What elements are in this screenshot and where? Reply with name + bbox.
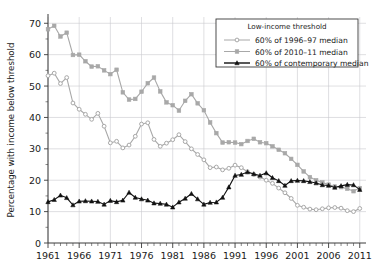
data-point	[152, 138, 156, 142]
data-point	[190, 92, 194, 96]
data-point	[165, 101, 169, 105]
data-point	[189, 191, 193, 195]
data-point	[127, 143, 131, 147]
data-point	[352, 210, 356, 214]
data-point	[271, 181, 275, 185]
data-point	[102, 69, 106, 73]
data-point	[127, 190, 131, 194]
data-point	[58, 193, 62, 197]
data-point	[190, 147, 194, 151]
x-tick-label: 1966	[67, 250, 91, 261]
data-point	[196, 102, 200, 106]
data-point	[65, 31, 69, 35]
x-tick-label: 2001	[285, 250, 309, 261]
data-point	[302, 170, 306, 174]
data-point	[208, 121, 212, 125]
y-tick-label: 30	[29, 143, 41, 154]
data-point	[171, 138, 175, 142]
chart-figure: 0102030405060701961196619711976198119861…	[0, 0, 379, 275]
data-point	[308, 175, 312, 179]
data-point	[165, 141, 169, 145]
data-point	[283, 151, 287, 155]
data-point	[46, 74, 50, 78]
data-point	[352, 189, 356, 193]
data-point	[333, 206, 337, 210]
legend-label: 60% of 1996–97 median	[255, 36, 348, 45]
data-point	[277, 148, 281, 152]
data-point	[59, 82, 63, 86]
data-point	[171, 103, 175, 107]
data-point	[233, 163, 237, 167]
data-point	[345, 187, 349, 191]
x-tick-label: 1996	[254, 250, 278, 261]
legend-label: 60% of 2010–11 median	[255, 48, 348, 57]
data-point	[52, 24, 56, 28]
data-point	[121, 91, 125, 95]
data-point	[289, 197, 293, 201]
data-point	[264, 171, 268, 175]
data-point	[277, 186, 281, 190]
data-point	[296, 163, 300, 167]
legend-title: Low-income threshold	[247, 22, 326, 31]
data-point	[239, 142, 243, 146]
data-point	[252, 137, 256, 141]
data-point	[339, 206, 343, 210]
y-tick-label: 40	[29, 112, 41, 123]
legend: Low-income threshold60% of 1996–97 media…	[216, 19, 369, 68]
data-point	[158, 144, 162, 148]
data-point	[177, 133, 181, 137]
data-point	[140, 122, 144, 126]
x-tick-label: 1991	[223, 250, 247, 261]
data-point	[202, 108, 206, 112]
x-tick-label: 1971	[98, 250, 122, 261]
data-point	[90, 117, 94, 121]
x-tick-label: 1986	[192, 250, 216, 261]
data-point	[59, 35, 63, 39]
data-point	[233, 141, 237, 145]
data-point	[183, 140, 187, 144]
data-point	[52, 71, 56, 75]
data-point	[152, 76, 156, 80]
data-point	[96, 64, 100, 68]
data-point	[46, 27, 50, 31]
data-point	[345, 209, 349, 213]
data-point	[127, 98, 131, 102]
data-point	[109, 72, 113, 76]
data-point	[264, 178, 268, 182]
y-tick-label: 60	[29, 49, 41, 60]
data-point	[65, 76, 69, 80]
data-point	[71, 53, 75, 57]
data-point	[146, 121, 150, 125]
data-point	[271, 145, 275, 149]
line-chart: 0102030405060701961196619711976198119861…	[0, 0, 379, 275]
data-point	[227, 140, 231, 144]
data-point	[121, 146, 125, 150]
data-point	[108, 141, 112, 145]
data-point	[177, 200, 181, 204]
data-point	[314, 208, 318, 212]
data-point	[221, 141, 225, 145]
data-point	[77, 53, 81, 57]
data-point	[327, 206, 331, 210]
data-point	[133, 134, 137, 138]
data-point	[258, 140, 262, 144]
data-point	[264, 141, 268, 145]
data-point	[177, 109, 181, 113]
y-tick-label: 20	[29, 175, 41, 186]
data-point	[108, 198, 112, 202]
legend-label: 60% of contemporary median	[255, 59, 369, 68]
data-point	[84, 59, 88, 63]
data-point	[133, 97, 137, 101]
data-point	[183, 99, 187, 103]
data-point	[289, 157, 293, 161]
y-tick-label: 50	[29, 81, 41, 92]
data-point	[84, 112, 88, 116]
data-point	[96, 111, 100, 115]
x-tick-label: 1961	[36, 250, 60, 261]
y-tick-label: 10	[29, 206, 41, 217]
data-point	[235, 50, 239, 54]
data-point	[214, 165, 218, 169]
data-point	[115, 139, 119, 143]
data-point	[246, 139, 250, 143]
x-tick-label: 1976	[129, 250, 153, 261]
